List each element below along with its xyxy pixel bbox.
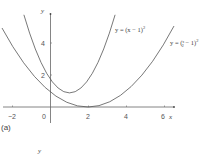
x-tick-label: −2 (8, 113, 16, 120)
equation-label-1: y = (x − 1)2 (115, 25, 145, 34)
x-axis-arrow (173, 106, 175, 108)
curve-half-x-minus-1-squared (2, 26, 174, 107)
x-tick-label: 6 (161, 113, 165, 120)
panel-label: (a) (1, 123, 11, 132)
y-tick-label: 4 (41, 40, 45, 47)
x-tick-label: 0 (42, 113, 46, 120)
next-panel-y-label: y (37, 147, 42, 154)
x-axis-label: x (168, 113, 173, 121)
chart-canvas: −2 0 2 4 6 x 2 4 y y = (x − 1)2 y = (x2 … (0, 0, 210, 154)
y-axis-label: y (40, 7, 45, 15)
x-tick-label: 4 (124, 113, 128, 120)
equation-label-2: y = (x2 − 1)2 (170, 38, 198, 48)
x-tick-label: 2 (86, 113, 90, 120)
y-tick-label: 2 (41, 72, 45, 79)
curve-x-minus-1-squared (24, 15, 115, 93)
y-axis-arrow (50, 13, 52, 15)
